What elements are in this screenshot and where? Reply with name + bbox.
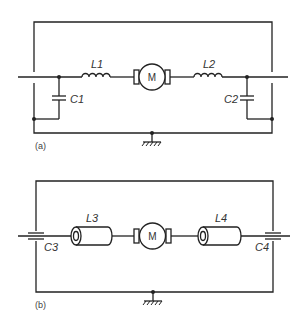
label-l1: L1 xyxy=(91,58,103,70)
panel-a: M xyxy=(18,22,288,151)
label-c1: C1 xyxy=(70,93,84,105)
capacitor-c2 xyxy=(240,75,274,121)
motor-label: M xyxy=(148,231,156,242)
capacitor-c1 xyxy=(32,75,66,121)
ferrite-bead-l4 xyxy=(198,227,241,245)
caption-b: (b) xyxy=(35,300,46,310)
label-c3: C3 xyxy=(44,241,59,253)
label-l4: L4 xyxy=(215,212,227,224)
label-c4: C4 xyxy=(255,241,269,253)
label-c2: C2 xyxy=(224,93,238,105)
motor-label: M xyxy=(148,72,156,83)
inductor-l2 xyxy=(194,74,222,77)
motor-b: M xyxy=(134,223,171,249)
label-l3: L3 xyxy=(86,212,99,224)
label-l2: L2 xyxy=(203,58,215,70)
inductor-l1 xyxy=(82,74,110,77)
caption-a: (a) xyxy=(35,141,46,151)
motor-a: M xyxy=(134,64,170,90)
circuit-diagram: M xyxy=(0,0,305,322)
panel-b: M L3 L4 C3 C4 (b) xyxy=(18,181,290,310)
ferrite-bead-l3 xyxy=(71,227,112,245)
